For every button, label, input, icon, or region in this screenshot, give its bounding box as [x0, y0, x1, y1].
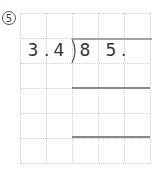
- grid-line: [20, 163, 150, 164]
- problem-number-badge: 5: [2, 11, 16, 25]
- divisor-digit: 3: [20, 38, 46, 63]
- long-division-grid: 3 . 4 8 5 .: [20, 13, 150, 163]
- subtraction-line: [72, 136, 150, 138]
- grid-line: [150, 13, 151, 163]
- dividend-digit: 8: [72, 38, 98, 63]
- grid-line: [20, 138, 150, 139]
- subtraction-line: [72, 87, 150, 89]
- grid-line: [20, 113, 150, 114]
- problem-number-text: 5: [6, 13, 12, 24]
- dividend-decimal-point: .: [121, 38, 126, 63]
- grid-line: [20, 13, 150, 14]
